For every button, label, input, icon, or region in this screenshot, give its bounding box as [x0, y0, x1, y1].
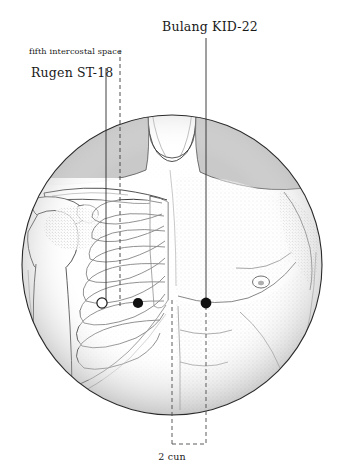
second-point-marker[interactable] [133, 298, 143, 308]
kid22-label: Bulang KID-22 [162, 19, 258, 34]
st18-label: Rugen ST-18 [31, 65, 114, 80]
measure-label: 2 cun [158, 451, 186, 462]
fifth-intercostal-space-label: fifth intercostal space [29, 46, 122, 56]
kid22-point-marker[interactable] [201, 298, 212, 309]
st18-point-marker[interactable] [97, 298, 107, 308]
